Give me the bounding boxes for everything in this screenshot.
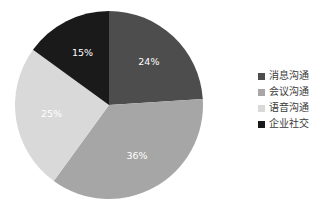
chart-legend: 消息沟通会议沟通语音沟通企业社交 — [258, 68, 328, 132]
legend-item-4[interactable]: 企业社交 — [258, 116, 328, 132]
pie-slice-group — [15, 11, 203, 199]
legend-item-2[interactable]: 会议沟通 — [258, 84, 328, 100]
square-marker-icon — [258, 105, 265, 112]
pie-slice-label-1: 24% — [138, 56, 159, 67]
legend-item-label: 会议沟通 — [269, 84, 309, 100]
pie-slice-label-4: 15% — [72, 47, 93, 58]
pie-slice-label-2: 36% — [127, 150, 148, 161]
legend-item-label: 企业社交 — [269, 116, 309, 132]
pie-svg: 24%36%25%15% — [0, 0, 230, 218]
legend-item-label: 语音沟通 — [269, 100, 309, 116]
square-marker-icon — [258, 73, 265, 80]
pie-chart-figure: 24%36%25%15% 消息沟通会议沟通语音沟通企业社交 — [0, 0, 328, 218]
legend-item-3[interactable]: 语音沟通 — [258, 100, 328, 116]
pie-slice-label-3: 25% — [41, 108, 62, 119]
square-marker-icon — [258, 121, 265, 128]
pie-plot-area: 24%36%25%15% — [0, 0, 230, 218]
square-marker-icon — [258, 89, 265, 96]
legend-item-1[interactable]: 消息沟通 — [258, 68, 328, 84]
legend-item-label: 消息沟通 — [269, 68, 309, 84]
